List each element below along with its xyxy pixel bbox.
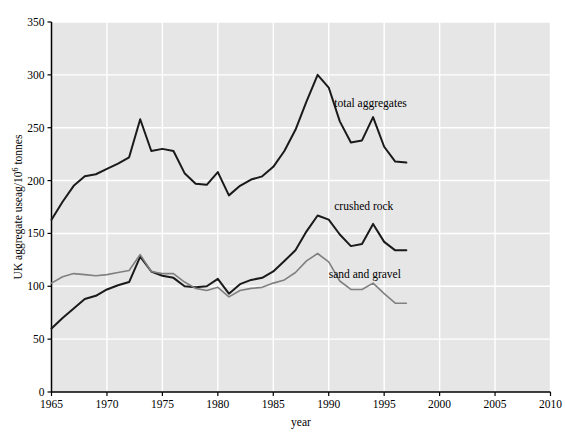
y-tick-label: 0	[39, 386, 45, 398]
y-tick-label: 50	[33, 333, 45, 345]
x-tick-label: 1970	[95, 398, 118, 410]
x-tick-label: 1965	[40, 398, 63, 410]
x-axis-tick-labels: 1965197019751980198519901995200020052010	[40, 398, 562, 410]
y-axis-tick-labels: 050100150200250300350	[27, 16, 45, 398]
chart-container: 050100150200250300350 196519701975198019…	[0, 0, 565, 433]
y-tick-label: 350	[27, 16, 45, 28]
sand-and-gravel-annotation: sand and gravel	[329, 268, 401, 281]
x-tick-label: 1990	[317, 398, 340, 410]
x-tick-label: 2010	[539, 398, 562, 410]
x-tick-label: 2000	[428, 398, 451, 410]
y-axis-title: UK aggregate useag/106 tonnes	[11, 134, 25, 279]
x-tick-label: 1985	[262, 398, 285, 410]
line-chart: 050100150200250300350 196519701975198019…	[0, 0, 565, 433]
x-tick-label: 1980	[206, 398, 229, 410]
y-tick-label: 250	[27, 122, 45, 134]
y-tick-label: 200	[27, 175, 45, 187]
plot-background	[52, 22, 551, 392]
y-tick-label: 100	[27, 280, 45, 292]
y-tick-label: 300	[27, 69, 45, 81]
y-tick-label: 150	[27, 227, 45, 239]
crushed-rock-annotation: crushed rock	[334, 200, 393, 212]
plot-area-background	[52, 22, 551, 392]
x-tick-label: 1995	[373, 398, 396, 410]
x-tick-label: 1975	[151, 398, 174, 410]
x-axis-title: year	[291, 416, 311, 429]
x-tick-label: 2005	[484, 398, 507, 410]
total-aggregates-annotation: total aggregates	[334, 97, 407, 110]
